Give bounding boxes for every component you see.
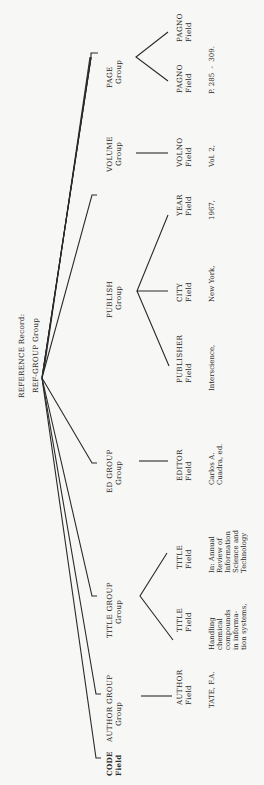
root-record-name: REFERENCE Record: bbox=[17, 314, 26, 398]
child-connectors bbox=[136, 32, 173, 696]
svg-text:TITLE: TITLE bbox=[175, 608, 184, 632]
connector-root-publish bbox=[42, 195, 97, 378]
field-pagno-2: PAGNO Field bbox=[175, 13, 193, 42]
value-title-1: Handling chemical compounds in informa- … bbox=[208, 603, 248, 650]
node-ed-group: ED GROUP Group bbox=[105, 449, 123, 493]
svg-text:VOLUME: VOLUME bbox=[105, 136, 114, 173]
value-pages: P. 285 - 309. bbox=[208, 46, 216, 94]
connector-root-ed-group bbox=[42, 378, 97, 463]
svg-text:TITLE GROUP: TITLE GROUP bbox=[105, 582, 114, 638]
field-title-1: TITLE Field bbox=[175, 608, 193, 632]
svg-text:Field: Field bbox=[184, 73, 193, 93]
svg-text:Carlos A.: Carlos A. bbox=[208, 453, 216, 485]
svg-text:Handling: Handling bbox=[208, 617, 216, 650]
node-publish-group: PUBLISH Group bbox=[105, 281, 123, 318]
svg-text:Field: Field bbox=[184, 147, 193, 167]
svg-text:AUTHOR GROUP: AUTHOR GROUP bbox=[105, 675, 114, 743]
svg-text:PUBLISHER: PUBLISHER bbox=[175, 335, 184, 383]
field-city: CITY Field bbox=[175, 282, 193, 302]
svg-text:Review of: Review of bbox=[216, 537, 224, 573]
reference-record-tree-diagram: REFERENCE Record: REF-GROUP Group PAGE G… bbox=[0, 0, 264, 785]
svg-text:TITLE: TITLE bbox=[175, 545, 184, 569]
svg-text:Interscience,: Interscience, bbox=[208, 345, 216, 391]
svg-text:chemical: chemical bbox=[216, 617, 224, 650]
svg-text:tion systems,: tion systems, bbox=[240, 603, 248, 650]
svg-text:CITY: CITY bbox=[175, 283, 184, 302]
node-volume-group: VOLUME Group bbox=[105, 136, 123, 173]
value-city: New York, bbox=[208, 265, 216, 302]
svg-text:Group: Group bbox=[114, 702, 123, 726]
svg-text:Field: Field bbox=[184, 549, 193, 569]
svg-text:TATE, F.A.: TATE, F.A. bbox=[208, 672, 216, 708]
svg-text:EDITOR: EDITOR bbox=[175, 449, 184, 481]
svg-text:Cuadra, ed.: Cuadra, ed. bbox=[216, 444, 224, 485]
svg-text:ED GROUP: ED GROUP bbox=[105, 449, 114, 493]
connector-root-code bbox=[42, 378, 101, 758]
value-author: TATE, F.A. bbox=[208, 672, 216, 708]
connector-publish-fields bbox=[137, 215, 169, 366]
connector-page-group bbox=[44, 57, 90, 370]
svg-text:CODE: CODE bbox=[105, 751, 114, 776]
svg-text:New York,: New York, bbox=[208, 265, 216, 302]
connector-page-pagno bbox=[136, 32, 168, 81]
field-pagno-1: PAGNO Field bbox=[175, 64, 193, 93]
svg-text:P. 285 - 309.: P. 285 - 309. bbox=[208, 46, 216, 94]
svg-text:Information: Information bbox=[224, 530, 232, 573]
svg-text:Group: Group bbox=[114, 142, 123, 166]
node-author-group: AUTHOR GROUP Group bbox=[105, 675, 123, 743]
connector-root-author-group bbox=[42, 378, 101, 694]
svg-text:Group: Group bbox=[114, 600, 123, 624]
root-connectors bbox=[42, 53, 101, 758]
svg-text:Field: Field bbox=[114, 754, 123, 776]
value-volume: Vol. 2, bbox=[208, 145, 216, 168]
svg-text:Field: Field bbox=[184, 196, 193, 216]
value-year: 1967, bbox=[208, 200, 216, 220]
svg-text:Group: Group bbox=[114, 286, 123, 310]
root-record-header: REFERENCE Record: REF-GROUP Group bbox=[17, 314, 40, 398]
svg-text:PUBLISH: PUBLISH bbox=[105, 281, 114, 318]
svg-text:1967,: 1967, bbox=[208, 200, 216, 220]
svg-text:Field: Field bbox=[184, 282, 193, 302]
svg-text:Field: Field bbox=[184, 685, 193, 705]
field-author: AUTHOR Field bbox=[175, 669, 193, 706]
value-editor: Carlos A. Cuadra, ed. bbox=[208, 444, 224, 485]
node-page-group: PAGE Group bbox=[105, 60, 123, 88]
svg-text:AUTHOR: AUTHOR bbox=[175, 669, 184, 706]
svg-text:Science and: Science and bbox=[232, 529, 240, 573]
node-title-group: TITLE GROUP Group bbox=[105, 582, 123, 638]
svg-text:PAGNO: PAGNO bbox=[175, 64, 184, 93]
svg-text:Field: Field bbox=[184, 461, 193, 481]
value-title-2: In: Annual Review of Information Science… bbox=[208, 529, 248, 573]
svg-text:in informa-: in informa- bbox=[232, 610, 240, 650]
connector-title-fields bbox=[140, 553, 173, 640]
field-publisher: PUBLISHER Field bbox=[175, 335, 193, 383]
svg-text:compounds: compounds bbox=[224, 609, 232, 650]
value-publisher: Interscience, bbox=[208, 345, 216, 391]
svg-text:VOLNO: VOLNO bbox=[175, 138, 184, 168]
svg-text:Group: Group bbox=[114, 60, 123, 84]
field-volno: VOLNO Field bbox=[175, 138, 193, 168]
svg-text:In: Annual: In: Annual bbox=[208, 535, 216, 573]
connector-root-title-group bbox=[42, 378, 97, 596]
svg-text:YEAR: YEAR bbox=[175, 194, 184, 217]
field-title-2: TITLE Field bbox=[175, 545, 193, 569]
svg-text:PAGE: PAGE bbox=[105, 66, 114, 88]
field-editor: EDITOR Field bbox=[175, 449, 193, 481]
svg-text:Group: Group bbox=[114, 461, 123, 485]
field-year: YEAR Field bbox=[175, 194, 193, 217]
root-group-name: REF-GROUP Group bbox=[31, 318, 40, 393]
svg-text:Field: Field bbox=[184, 612, 193, 632]
svg-text:PAGNO: PAGNO bbox=[175, 13, 184, 42]
svg-text:Technology: Technology bbox=[240, 533, 248, 573]
svg-text:Field: Field bbox=[184, 363, 193, 383]
svg-text:Vol. 2,: Vol. 2, bbox=[208, 145, 216, 168]
node-code-field: CODE Field bbox=[105, 751, 123, 776]
svg-text:Field: Field bbox=[184, 22, 193, 42]
